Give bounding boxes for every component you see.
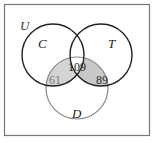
label-set-d: D [71, 106, 82, 121]
value-triple: 109 [68, 60, 86, 74]
label-set-t: T [108, 36, 116, 51]
venn-diagram: U C T D 109 61 89 [0, 0, 155, 143]
value-c-d: 61 [49, 73, 61, 87]
label-universe: U [20, 18, 31, 33]
value-t-d: 89 [96, 73, 108, 87]
label-set-c: C [38, 36, 47, 51]
